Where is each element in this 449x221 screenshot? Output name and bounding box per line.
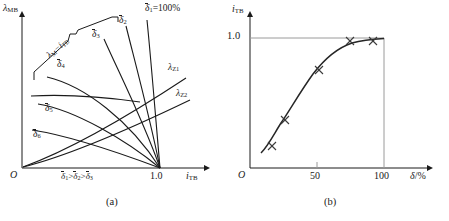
- x-axis-label-b: δ/%: [410, 171, 426, 181]
- origin-label-b: O: [238, 170, 245, 180]
- panel-b-graphics: [224, 0, 449, 221]
- data-markers: [268, 37, 377, 150]
- delta1-label: δ1=100%: [145, 4, 180, 14]
- panel-a: λMB λM−iTB δ1=100% δ2 δ3 δ4 δ5 δ6 λZ1 λZ…: [0, 0, 225, 221]
- x-tick-label-50: 50: [310, 171, 320, 181]
- x-axis-label-a: iTB: [186, 171, 197, 182]
- curve-delta1: [147, 20, 160, 168]
- lambda-z2-label: λZ2: [176, 89, 187, 99]
- curve-delta6: [32, 130, 160, 168]
- delta-inequality-label: δ1>δ2>δ3: [61, 172, 93, 181]
- curve-delta-flat: [31, 95, 140, 102]
- delta4-label: δ4: [57, 60, 65, 70]
- caption-b: (b): [324, 196, 336, 207]
- delta6-label: δ6: [33, 130, 41, 140]
- marker-1: [268, 142, 276, 150]
- y-axis-label-a: λMB: [3, 3, 18, 14]
- curve-lambda-z1: [23, 78, 186, 167]
- lambda-z1-label: λZ1: [168, 63, 179, 73]
- caption-a: (a): [106, 196, 118, 207]
- y-tick-label-b: 1.0: [227, 31, 240, 42]
- x-tick-label-100: 100: [374, 171, 389, 181]
- panel-a-graphics: [0, 0, 225, 221]
- x-tick-label-a: 1.0: [150, 171, 163, 181]
- curve-delta5: [38, 104, 160, 168]
- origin-label-a: O: [10, 170, 17, 180]
- delta3-label: δ3: [92, 30, 100, 40]
- delta5-label: δ5: [45, 104, 53, 114]
- curve-delta3: [104, 39, 160, 168]
- delta2-label: δ2: [119, 16, 127, 26]
- panel-b: iTB 1.0 O 50 100 δ/% (b): [224, 0, 449, 221]
- saturation-curve: [261, 39, 384, 154]
- y-axis-label-a-sub: MB: [7, 6, 18, 13]
- y-axis-label-b: iTB: [232, 4, 243, 15]
- delta-curve-fan: [32, 20, 160, 168]
